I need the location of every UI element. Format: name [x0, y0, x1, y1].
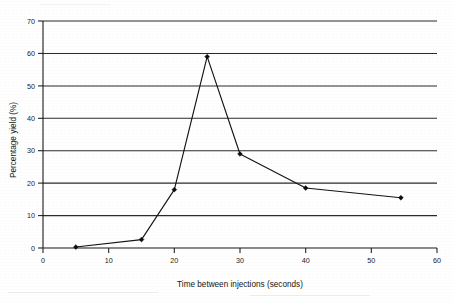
chart-container: 70 60 50 40 30 20 10 0 0 10 20 30 40 50 … [0, 0, 453, 302]
y-tick-label: 10 [27, 211, 35, 220]
x-tick-label: 40 [302, 256, 310, 265]
y-tick-label: 50 [27, 82, 35, 91]
y-tick-label: 30 [27, 146, 35, 155]
y-tick-label: 20 [27, 179, 35, 188]
x-tick-label: 0 [41, 256, 45, 265]
y-tick-label: 0 [31, 244, 35, 253]
plot-area-background [43, 21, 437, 248]
y-tick-label: 40 [27, 114, 35, 123]
x-tick-label: 30 [236, 256, 244, 265]
y-axis-ticks [38, 21, 43, 248]
x-tick-label: 20 [170, 256, 178, 265]
y-tick-label: 70 [27, 17, 35, 26]
y-tick-label: 60 [27, 49, 35, 58]
x-axis-ticks [43, 248, 437, 253]
y-axis-tick-labels: 70 60 50 40 30 20 10 0 [27, 17, 35, 253]
x-tick-label: 60 [433, 256, 441, 265]
line-chart: 70 60 50 40 30 20 10 0 0 10 20 30 40 50 … [0, 0, 453, 302]
x-tick-label: 50 [367, 256, 375, 265]
y-axis-title: Percentage yield (%) [9, 102, 18, 178]
x-axis-title: Time between injections (seconds) [177, 280, 303, 289]
x-tick-label: 10 [105, 256, 113, 265]
x-axis-tick-labels: 0 10 20 30 40 50 60 [41, 256, 441, 265]
